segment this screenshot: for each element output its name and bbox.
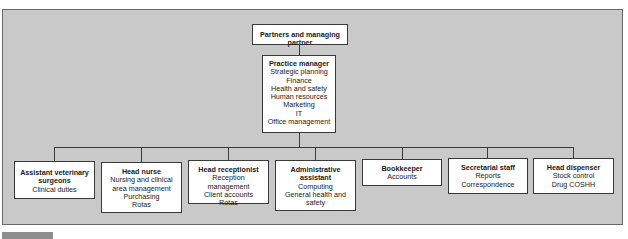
connector-manager-to-bus — [299, 133, 300, 148]
connector-bus — [54, 147, 574, 148]
partners-title: Partners and managing partner — [255, 31, 345, 48]
connector-drop — [315, 147, 316, 160]
staff-box-head-receptionist: Head receptionist Reception management C… — [188, 160, 269, 204]
staff-title: Administrative assistant — [284, 166, 347, 183]
connector-drop — [402, 147, 403, 159]
staff-box-assistant-vets: Assistant veterinary surgeons Clinical d… — [14, 161, 95, 199]
staff-box-head-nurse: Head nurse Nursing and clinical area man… — [101, 162, 182, 213]
partners-box: Partners and managing partner — [252, 24, 348, 45]
connector-drop — [573, 147, 574, 158]
connector-drop — [54, 147, 55, 161]
staff-box-bookkeeper: Bookkeeper Accounts — [362, 159, 442, 186]
duty: Correspondence — [451, 181, 525, 189]
duty: Clinical duties — [17, 186, 92, 194]
duty: Office management — [265, 118, 333, 126]
staff-box-head-dispenser: Head dispenser Stock control Drug COSHH — [533, 158, 614, 194]
staff-title: Assistant veterinary surgeons — [17, 169, 92, 186]
duty: Nursing and clinical area management — [104, 176, 179, 193]
staff-box-admin-assistant: Administrative assistant Computing Gener… — [275, 160, 356, 211]
figure-label-bar — [2, 232, 53, 239]
duty: Drug COSHH — [536, 181, 611, 189]
duty: Accounts — [365, 173, 439, 181]
practice-manager-box: Practice manager Strategic planning Fina… — [262, 55, 336, 133]
duty: Rotas — [104, 201, 179, 209]
duty: Rotas — [191, 199, 266, 207]
connector-drop — [228, 147, 229, 160]
duty: General health and safety — [284, 191, 347, 208]
duty: Reception management — [191, 174, 266, 191]
connector-drop — [141, 147, 142, 162]
staff-box-secretarial: Secretarial staff Reports Correspondence — [448, 158, 528, 194]
connector-drop — [487, 147, 488, 158]
